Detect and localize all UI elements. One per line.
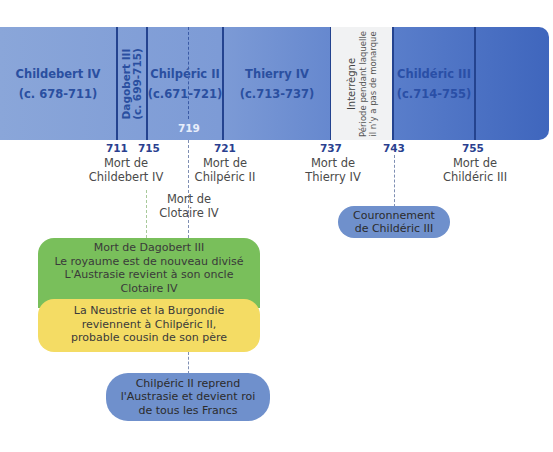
event-line: Mort de xyxy=(152,192,226,206)
event-line: Mort de xyxy=(436,156,514,170)
event-line: Clotaire IV xyxy=(152,206,226,220)
reign-name: Childéric III xyxy=(397,64,471,84)
divider-755 xyxy=(474,27,476,140)
reign-dates: (c.714-755) xyxy=(397,84,471,104)
reign-timeline-band: Childebert IV (c. 678-711) Dagobert III … xyxy=(0,27,549,140)
reign-childeric-iii: Childéric III (c.714-755) xyxy=(394,27,474,140)
box-line: La Neustrie et la Burgondie xyxy=(38,304,260,318)
pill-line: Couronnement xyxy=(353,209,435,223)
reign-dagobert-iii: Dagobert III (c. 699-715) xyxy=(118,27,146,140)
event-box-dagobert-death: Mort de Dagobert III Le royaume est de n… xyxy=(38,238,260,308)
box-text: La Neustrie et la Burgondie reviennent à… xyxy=(38,304,260,345)
event-line: Childéric III xyxy=(436,170,514,184)
event-death-chilperic-ii: Mort de Chilpéric II xyxy=(190,156,260,184)
reign-name: Childebert IV xyxy=(16,64,101,84)
reign-name: Thierry IV xyxy=(245,64,309,84)
box-line: Mort de Dagobert III xyxy=(38,241,260,255)
box-line: probable cousin de son père xyxy=(38,331,260,345)
event-death-childeric-iii: Mort de Childéric III xyxy=(436,156,514,184)
interregnum-desc-1: Période pendant laquelle xyxy=(358,30,368,136)
reign-name: Chilpéric II xyxy=(150,64,220,84)
pill-line: l'Austrasie et devient roi xyxy=(121,390,255,404)
pill-line: Chilpéric II reprend xyxy=(136,377,241,391)
pill-line: de Childéric III xyxy=(355,222,434,236)
year-737: 737 xyxy=(320,142,342,154)
event-line: Childebert IV xyxy=(78,170,174,184)
connector-chilperic xyxy=(188,352,189,374)
box-line: L'Austrasie revient à son oncle xyxy=(38,268,260,282)
event-pill-chilperic-king-of-franks: Chilpéric II reprend l'Austrasie et devi… xyxy=(106,373,270,421)
reign-childebert-iv: Childebert IV (c. 678-711) xyxy=(0,27,116,140)
reign-thierry-iv: Thierry IV (c.713-737) xyxy=(224,27,330,140)
year-743: 743 xyxy=(383,142,405,154)
box-text: Mort de Dagobert III Le royaume est de n… xyxy=(38,241,260,295)
event-line: Chilpéric II xyxy=(190,170,260,184)
event-line: Mort de xyxy=(298,156,368,170)
box-line: Clotaire IV xyxy=(38,282,260,296)
year-755: 755 xyxy=(462,142,484,154)
year-711: 711 xyxy=(106,142,128,154)
year-715: 715 xyxy=(138,142,160,154)
reign-dates: (c. 699-715) xyxy=(132,48,143,120)
dashed-line-719 xyxy=(188,27,189,119)
connector-715 xyxy=(146,190,147,238)
interregnum-title: Interrègne xyxy=(346,30,358,136)
interregnum-period: Interrègne Période pendant laquelle il n… xyxy=(331,27,392,140)
event-pill-coronation-childeric-iii: Couronnement de Childéric III xyxy=(338,206,450,238)
reign-dates: (c.671-721) xyxy=(148,84,222,104)
year-721: 721 xyxy=(214,142,236,154)
event-box-neustrie-burgondie: La Neustrie et la Burgondie reviennent à… xyxy=(38,299,260,352)
connector-719 xyxy=(188,140,189,238)
event-line: Mort de xyxy=(78,156,174,170)
reign-dates: (c. 678-711) xyxy=(19,84,97,104)
event-death-thierry-iv: Mort de Thierry IV xyxy=(298,156,368,184)
box-line: Le royaume est de nouveau divisé xyxy=(38,255,260,269)
year-719: 719 xyxy=(178,122,200,134)
event-death-childebert-iv: Mort de Childebert IV xyxy=(78,156,174,184)
event-line: Mort de xyxy=(190,156,260,170)
pill-line: de tous les Francs xyxy=(138,404,237,418)
interregnum-desc-2: il n'y a pas de monarque xyxy=(368,30,378,136)
reign-dates: (c.713-737) xyxy=(240,84,314,104)
event-death-clotaire-iv: Mort de Clotaire IV xyxy=(152,192,226,220)
connector-743 xyxy=(394,155,395,207)
box-line: reviennent à Chilpéric II, xyxy=(38,318,260,332)
event-line: Thierry IV xyxy=(298,170,368,184)
